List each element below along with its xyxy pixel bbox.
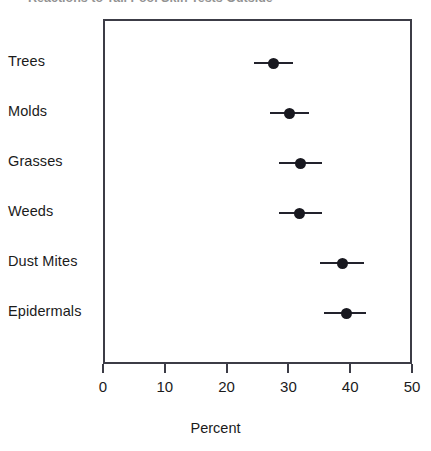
x-axis-tick-label: 50: [404, 378, 421, 395]
x-axis-tick-label: 0: [99, 378, 107, 395]
category-label: Weeds: [8, 203, 53, 219]
x-axis-tick: [164, 364, 166, 373]
x-axis-tick-label: 20: [218, 378, 235, 395]
x-axis-tick-label: 30: [280, 378, 297, 395]
category-label: Epidermals: [8, 303, 82, 319]
category-label: Molds: [8, 103, 47, 119]
category-label: Trees: [8, 53, 45, 69]
chart-title-clipped: Reactions to Tall Pool Skin Tests Outsid…: [0, 0, 431, 6]
data-point-marker: [341, 308, 352, 319]
data-point-marker: [268, 58, 279, 69]
category-label: Dust Mites: [8, 253, 78, 269]
data-point-marker: [337, 258, 348, 269]
x-axis-tick: [349, 364, 351, 373]
data-point-marker: [294, 208, 305, 219]
x-axis-tick: [287, 364, 289, 373]
x-axis-tick: [411, 364, 413, 373]
category-label: Grasses: [8, 153, 63, 169]
plot-area: [103, 19, 412, 364]
x-axis-title: Percent: [0, 420, 431, 436]
x-axis-tick-label: 10: [156, 378, 173, 395]
x-axis-tick: [226, 364, 228, 373]
x-axis-tick-label: 40: [342, 378, 359, 395]
data-point-marker: [295, 158, 306, 169]
data-point-marker: [284, 108, 295, 119]
x-axis-tick: [102, 364, 104, 373]
chart-title-text: Reactions to Tall Pool Skin Tests Outsid…: [28, 0, 273, 5]
